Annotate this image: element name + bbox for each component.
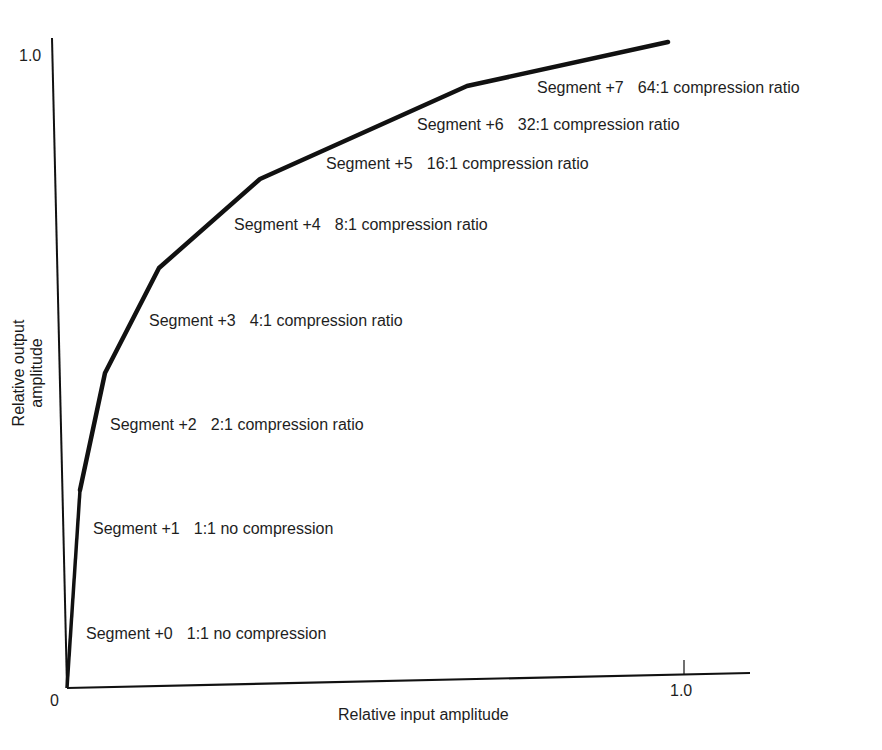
segment-ratio: 32:1 compression ratio	[518, 116, 680, 133]
y-axis	[52, 38, 67, 688]
segment-ratio: 64:1 compression ratio	[638, 79, 800, 96]
y-axis-title: Relative output amplitude	[10, 283, 46, 463]
segment-ratio: 2:1 compression ratio	[211, 416, 364, 433]
origin-label: 0	[50, 692, 59, 710]
segment-name: Segment +2	[110, 416, 197, 433]
segment-label-1: Segment +11:1 no compression	[93, 520, 333, 538]
segment-name: Segment +6	[417, 116, 504, 133]
segment-label-4: Segment +48:1 compression ratio	[234, 216, 488, 234]
segment-ratio: 1:1 no compression	[194, 520, 334, 537]
segment-label-5: Segment +516:1 compression ratio	[326, 155, 589, 173]
segment-ratio: 16:1 compression ratio	[427, 155, 589, 172]
segment-ratio: 8:1 compression ratio	[335, 216, 488, 233]
segment-name: Segment +4	[234, 216, 321, 233]
segment-name: Segment +3	[149, 312, 236, 329]
x-axis	[67, 673, 750, 688]
segment-name: Segment +0	[86, 625, 173, 642]
segment-label-6: Segment +632:1 compression ratio	[417, 116, 680, 134]
segment-label-3: Segment +34:1 compression ratio	[149, 312, 403, 330]
segment-label-0: Segment +01:1 no compression	[86, 625, 326, 643]
y-max-tick-label: 1.0	[19, 47, 41, 65]
segment-label-7: Segment +764:1 compression ratio	[537, 79, 800, 97]
segment-0-line	[67, 490, 80, 688]
segment-name: Segment +5	[326, 155, 413, 172]
segment-ratio: 1:1 no compression	[187, 625, 327, 642]
x-max-tick-label: 1.0	[670, 682, 692, 700]
segment-ratio: 4:1 compression ratio	[250, 312, 403, 329]
segment-name: Segment +1	[93, 520, 180, 537]
x-axis-title: Relative input amplitude	[338, 706, 509, 724]
segment-label-2: Segment +22:1 compression ratio	[110, 416, 364, 434]
segment-name: Segment +7	[537, 79, 624, 96]
